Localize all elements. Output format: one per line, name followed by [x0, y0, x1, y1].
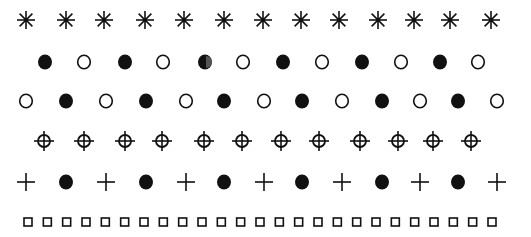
- open-square-icon: [43, 218, 51, 226]
- open-square-icon: [63, 218, 71, 226]
- open-square-icon: [179, 218, 187, 226]
- open-square-icon: [256, 218, 264, 226]
- open-square-icon: [237, 218, 245, 226]
- crosshair-icon: [271, 131, 291, 151]
- plus-icon: [17, 173, 35, 191]
- asterisk-icon: [405, 11, 423, 29]
- filled-circle-icon: [217, 94, 231, 109]
- open-square-icon: [101, 218, 109, 226]
- filled-circle-icon: [295, 94, 309, 109]
- open-circle-icon: [157, 55, 170, 69]
- asterisk-icon: [369, 11, 387, 29]
- filled-circle-icon: [451, 94, 465, 109]
- open-square-icon: [24, 218, 32, 226]
- filled-circle-icon: [139, 175, 153, 190]
- asterisk-icon: [254, 11, 272, 29]
- open-circle-icon: [258, 94, 271, 108]
- open-square-icon: [333, 218, 341, 226]
- open-square-icon: [140, 218, 148, 226]
- filled-circle-icon: [59, 175, 73, 190]
- filled-circle-icon: [59, 94, 73, 109]
- asterisk-icon: [292, 11, 310, 29]
- plus-icon: [97, 173, 115, 191]
- open-square-icon: [217, 218, 225, 226]
- asterisk-icon: [215, 11, 233, 29]
- filled-circle-icon: [217, 175, 231, 190]
- open-circle-icon: [336, 94, 349, 108]
- plus-icon: [177, 173, 195, 191]
- square-row: [24, 218, 496, 226]
- filled-circle-icon: [433, 55, 447, 70]
- open-square-icon: [391, 218, 399, 226]
- open-square-icon: [275, 218, 283, 226]
- open-circle-icon: [316, 55, 329, 69]
- crosshair-icon: [34, 131, 54, 151]
- asterisk-icon: [95, 11, 113, 29]
- asterisk-icon: [330, 11, 348, 29]
- filled-circle-icon: [295, 175, 309, 190]
- crosshair-icon: [194, 131, 214, 151]
- open-square-icon: [82, 218, 90, 226]
- open-circle-icon: [395, 55, 408, 69]
- crosshair-icon: [388, 131, 408, 151]
- symbols-svg: [0, 0, 531, 237]
- open-circle-icon: [414, 94, 427, 108]
- open-circle-icon: [472, 55, 485, 69]
- half-circle-icon: [198, 55, 212, 70]
- filled-circle-icon: [375, 94, 389, 109]
- open-circle-icon: [100, 94, 113, 108]
- open-square-icon: [159, 218, 167, 226]
- asterisk-icon: [175, 11, 193, 29]
- open-filled-circle-row: [20, 94, 504, 109]
- crosshair-icon: [423, 131, 443, 151]
- plus-icon: [255, 173, 273, 191]
- filled-circle-icon: [139, 94, 153, 109]
- plus-icon: [411, 173, 429, 191]
- open-square-icon: [449, 218, 457, 226]
- open-square-icon: [295, 218, 303, 226]
- crosshair-icon: [309, 131, 329, 151]
- asterisk-icon: [17, 11, 35, 29]
- crosshair-icon: [350, 131, 370, 151]
- asterisk-icon: [441, 11, 459, 29]
- crosshair-icon: [232, 131, 252, 151]
- open-square-icon: [121, 218, 129, 226]
- crosshair-icon: [152, 131, 172, 151]
- crosshair-icon: [74, 131, 94, 151]
- open-circle-icon: [491, 94, 504, 108]
- open-square-icon: [488, 218, 496, 226]
- open-square-icon: [411, 218, 419, 226]
- plus-icon: [488, 173, 506, 191]
- plus-icon: [333, 173, 351, 191]
- crosshair-icon: [461, 131, 481, 151]
- open-circle-icon: [20, 94, 33, 108]
- open-square-icon: [430, 218, 438, 226]
- asterisk-row: [17, 11, 500, 29]
- open-square-icon: [372, 218, 380, 226]
- filled-circle-icon: [375, 175, 389, 190]
- asterisk-icon: [482, 11, 500, 29]
- filled-circle-icon: [38, 55, 52, 70]
- filled-circle-icon: [276, 55, 290, 70]
- symbol-chart: [0, 0, 531, 237]
- filled-open-circle-row: [38, 55, 484, 70]
- filled-circle-icon: [451, 175, 465, 190]
- open-square-icon: [469, 218, 477, 226]
- filled-circle-icon: [118, 55, 132, 70]
- open-circle-icon: [237, 55, 250, 69]
- asterisk-icon: [136, 11, 154, 29]
- crosshair-icon: [115, 131, 135, 151]
- asterisk-icon: [57, 11, 75, 29]
- open-square-icon: [198, 218, 206, 226]
- open-circle-icon: [78, 55, 91, 69]
- plus-dot-row: [17, 173, 506, 191]
- open-square-icon: [314, 218, 322, 226]
- open-square-icon: [353, 218, 361, 226]
- filled-circle-icon: [355, 55, 369, 70]
- crosshair-row: [34, 131, 481, 151]
- open-circle-icon: [180, 94, 193, 108]
